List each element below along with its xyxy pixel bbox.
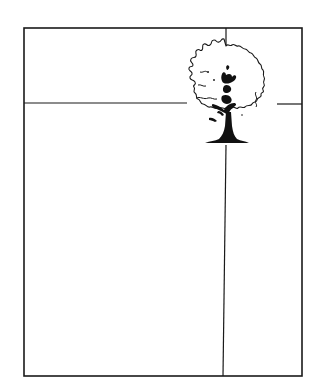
tree-dot — [213, 79, 215, 81]
tree-dot — [241, 114, 243, 116]
tree-dot — [207, 71, 209, 73]
background — [0, 0, 323, 390]
composition-diagram — [0, 0, 323, 390]
